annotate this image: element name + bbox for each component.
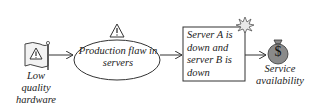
- label-line: quality: [14, 82, 58, 94]
- label-line: Service: [252, 63, 308, 75]
- label-line: Low: [14, 70, 58, 82]
- hazard-flag-icon: [25, 41, 50, 70]
- label-line: availability: [252, 75, 308, 87]
- label-line: down: [187, 67, 245, 80]
- label-line: Server A is: [187, 29, 245, 42]
- label-line: hardware: [14, 94, 58, 106]
- label-line: Production flaw in: [76, 45, 160, 57]
- event-label: Server A is down and server B is down: [187, 29, 245, 79]
- cause-label: Low quality hardware: [14, 70, 58, 106]
- label-line: servers: [76, 57, 160, 69]
- warning-triangle-icon: [110, 24, 124, 37]
- label-line: down and: [187, 42, 245, 55]
- dollar-symbol: $: [271, 44, 285, 60]
- loss-label: Service availability: [252, 63, 308, 87]
- label-line: server B is: [187, 54, 245, 67]
- flaw-label: Production flaw in servers: [76, 45, 160, 69]
